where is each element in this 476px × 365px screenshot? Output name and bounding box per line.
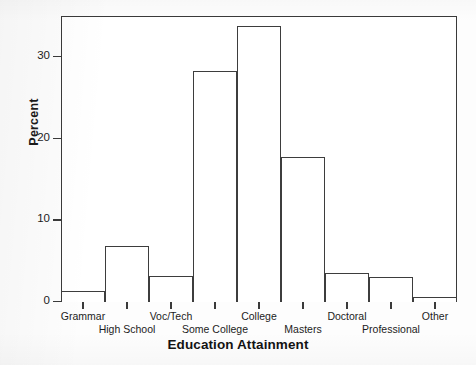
x-tick-mark: [258, 302, 260, 309]
x-tick-label: Voc/Tech: [150, 310, 193, 322]
bar: [237, 26, 281, 302]
bar: [325, 273, 369, 302]
bar: [149, 276, 193, 302]
x-tick-label: High School: [99, 323, 156, 335]
x-tick-label: College: [241, 310, 277, 322]
x-tick-mark: [434, 302, 436, 309]
y-tick-label: 10: [20, 212, 50, 224]
x-tick-label: Grammar: [61, 310, 105, 322]
x-tick-mark: [346, 302, 348, 309]
y-tick-label: 20: [20, 131, 50, 143]
x-tick-mark: [302, 302, 304, 309]
x-axis-title: Education Attainment: [0, 337, 476, 352]
bar: [61, 291, 105, 302]
bar: [369, 277, 413, 302]
y-axis-title: Percent: [27, 62, 41, 182]
x-tick-label: Masters: [284, 323, 321, 335]
x-tick-mark: [82, 302, 84, 309]
bar: [281, 157, 325, 302]
bar: [105, 246, 149, 302]
x-tick-label: Doctoral: [327, 310, 366, 322]
bar: [193, 71, 237, 302]
y-tick-label: 30: [20, 49, 50, 61]
x-tick-label: Professional: [362, 323, 420, 335]
chart-page: Percent 0102030 GrammarHigh SchoolVoc/Te…: [0, 0, 476, 365]
y-tick-label: 0: [20, 294, 50, 306]
x-tick-mark: [170, 302, 172, 309]
bar-series: [61, 16, 457, 302]
x-tick-mark: [390, 302, 392, 309]
x-tick-mark: [126, 302, 128, 309]
x-tick-label: Some College: [182, 323, 248, 335]
x-tick-mark: [214, 302, 216, 309]
x-tick-label: Other: [422, 310, 448, 322]
